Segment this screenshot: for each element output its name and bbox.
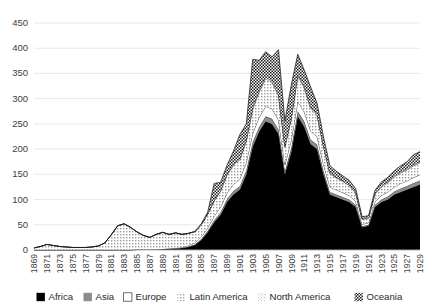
x-tick-label: 1929 (415, 254, 425, 273)
x-tick-label: 1887 (145, 254, 155, 273)
x-tick-label: 1883 (119, 254, 129, 273)
x-tick-label: 1913 (312, 254, 322, 273)
legend-label-europe: Europe (136, 291, 167, 302)
stacked-area-chart: 050100150200250300350400450 186918711873… (0, 0, 431, 308)
x-tick-label: 1923 (377, 254, 387, 273)
legend-swatch-europe (124, 293, 132, 301)
x-tick-label: 1901 (235, 254, 245, 273)
x-tick-label: 1927 (402, 254, 412, 273)
y-tick-label: 200 (12, 143, 28, 154)
y-axis-labels: 050100150200250300350400450 (12, 17, 28, 255)
legend-swatch-oceania (355, 293, 363, 301)
legend-label-north-america: North America (270, 291, 331, 302)
legend-swatch-latin-america (178, 293, 186, 301)
x-tick-label: 1871 (42, 254, 52, 273)
legend-label-africa: Africa (49, 291, 74, 302)
y-tick-label: 400 (12, 42, 28, 53)
x-tick-label: 1895 (196, 254, 206, 273)
x-tick-label: 1917 (338, 254, 348, 273)
x-tick-label: 1911 (299, 254, 309, 273)
x-tick-label: 1885 (132, 254, 142, 273)
x-tick-label: 1873 (55, 254, 65, 273)
x-tick-label: 1881 (106, 254, 116, 273)
x-tick-label: 1919 (351, 254, 361, 273)
x-tick-label: 1869 (29, 254, 39, 273)
x-tick-label: 1879 (94, 254, 104, 273)
y-tick-label: 50 (17, 219, 28, 230)
legend-label-latin-america: Latin America (190, 291, 249, 302)
y-tick-label: 350 (12, 67, 28, 78)
legend-label-asia: Asia (96, 291, 115, 302)
x-tick-label: 1915 (325, 254, 335, 273)
x-tick-label: 1889 (158, 254, 168, 273)
y-tick-label: 250 (12, 118, 28, 129)
x-tick-label: 1877 (81, 254, 91, 273)
legend-swatch-asia (84, 293, 92, 301)
chart-container: 050100150200250300350400450 186918711873… (0, 0, 431, 308)
y-tick-label: 450 (12, 17, 28, 28)
x-tick-label: 1909 (287, 254, 297, 273)
y-tick-label: 100 (12, 194, 28, 205)
x-tick-label: 1925 (389, 254, 399, 273)
x-tick-label: 1905 (261, 254, 271, 273)
x-tick-label: 1899 (222, 254, 232, 273)
y-tick-label: 0 (23, 244, 28, 255)
legend-label-oceania: Oceania (367, 291, 403, 302)
legend-swatch-africa (37, 293, 45, 301)
x-tick-label: 1903 (248, 254, 258, 273)
x-tick-label: 1891 (171, 254, 181, 273)
x-tick-label: 1875 (68, 254, 78, 273)
y-tick-label: 300 (12, 93, 28, 104)
legend-swatch-north-america (258, 293, 266, 301)
x-axis-labels: 1869187118731875187718791881188318851887… (29, 254, 425, 273)
x-tick-label: 1907 (274, 254, 284, 273)
x-tick-label: 1893 (184, 254, 194, 273)
series-areas (34, 50, 420, 250)
x-tick-label: 1897 (209, 254, 219, 273)
x-tick-label: 1921 (364, 254, 374, 273)
y-tick-label: 150 (12, 168, 28, 179)
legend: AfricaAsiaEuropeLatin AmericaNorth Ameri… (37, 291, 403, 302)
